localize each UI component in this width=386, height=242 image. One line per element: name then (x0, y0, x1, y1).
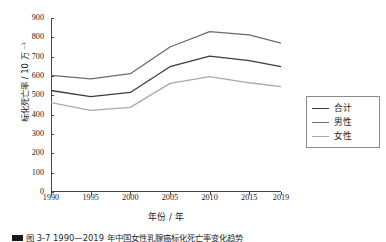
legend-line-swatch (312, 108, 329, 109)
y-tick-label: 200 (32, 149, 44, 157)
caption-marker-icon (12, 235, 23, 241)
x-tick-label: 2019 (273, 194, 289, 202)
x-axis-tick-labels: 1990199520002005201020152019 (51, 194, 281, 208)
figure-container: 标化死亡率 / 10 万 ⁻¹ 010020030040050060070080… (0, 0, 386, 242)
legend-line-swatch (312, 136, 329, 137)
y-tick-label: 500 (32, 91, 44, 99)
x-tick-mark (130, 192, 131, 195)
legend-label: 男性 (334, 118, 352, 127)
y-tick-mark (51, 18, 54, 19)
y-tick-mark (51, 37, 54, 38)
y-tick-mark (51, 115, 54, 116)
x-tick-mark (51, 192, 52, 195)
y-tick-label: 900 (32, 14, 44, 22)
legend-line-swatch (312, 122, 329, 123)
y-tick-mark (51, 134, 54, 135)
series-lines (51, 18, 281, 192)
y-tick-mark (51, 153, 54, 154)
x-tick-label: 2010 (201, 194, 217, 202)
legend-item[interactable]: 女性 (312, 129, 375, 143)
x-tick-mark (249, 192, 250, 195)
series-line (51, 77, 281, 111)
x-tick-mark (91, 192, 92, 195)
x-tick-mark (210, 192, 211, 195)
y-tick-label: 800 (32, 33, 44, 41)
series-line (51, 32, 281, 79)
y-tick-label: 700 (32, 53, 44, 61)
x-tick-label: 1990 (43, 194, 59, 202)
x-tick-mark (281, 192, 282, 195)
y-tick-label: 400 (32, 111, 44, 119)
y-tick-mark (51, 76, 54, 77)
y-axis-tick-labels: 0100200300400500600700800900 (0, 18, 49, 192)
legend-item[interactable]: 合计 (312, 101, 375, 115)
y-tick-label: 600 (32, 72, 44, 80)
legend-label: 女性 (334, 132, 352, 141)
y-tick-mark (51, 173, 54, 174)
x-axis-title: 年份 / 年 (51, 210, 281, 223)
x-tick-mark (170, 192, 171, 195)
y-tick-label: 300 (32, 130, 44, 138)
chart-legend: 合计男性女性 (306, 96, 380, 148)
legend-label: 合计 (334, 104, 352, 113)
y-tick-mark (51, 95, 54, 96)
plot-area (51, 18, 281, 192)
y-tick-mark (51, 57, 54, 58)
y-tick-label: 100 (32, 169, 44, 177)
caption-text: 图 3-7 1990—2019 年中国女性乳腺癌标化死亡率变化趋势 (0, 234, 386, 242)
x-tick-label: 1995 (82, 194, 98, 202)
series-line (51, 56, 281, 97)
legend-item[interactable]: 男性 (312, 115, 375, 129)
figure-caption: 图 3-7 1990—2019 年中国女性乳腺癌标化死亡率变化趋势 (0, 234, 386, 242)
x-tick-label: 2000 (122, 194, 138, 202)
x-tick-label: 2015 (241, 194, 257, 202)
x-tick-label: 2005 (162, 194, 178, 202)
